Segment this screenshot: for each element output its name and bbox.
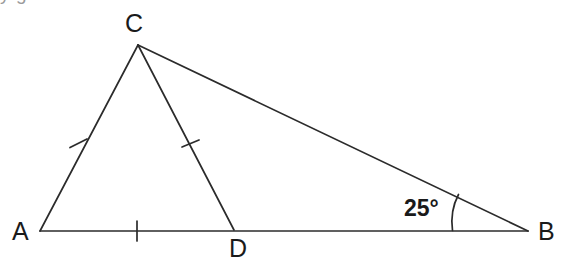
vertex-label-B: B	[538, 217, 555, 245]
angle-label-25-degrees: 25°	[404, 195, 439, 221]
segment-CB	[138, 45, 528, 231]
triangle-diagram-svg: A B C D 25°	[0, 0, 561, 261]
segment-AC	[40, 45, 138, 231]
vertex-label-D: D	[229, 234, 247, 261]
vertex-label-C: C	[125, 9, 143, 37]
angle-arc-at-B	[452, 195, 459, 231]
segment-CD	[138, 45, 234, 230]
geometry-figure: y g A B C D 25°	[0, 0, 561, 261]
vertex-label-A: A	[12, 217, 29, 245]
